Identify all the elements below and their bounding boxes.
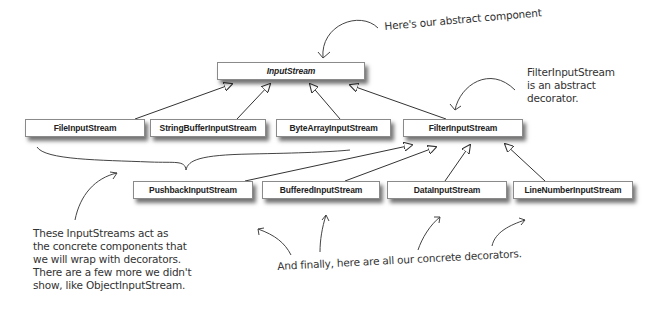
class-datainputstream: DataInputStream	[387, 181, 507, 199]
class-bytearrayinputstream: ByteArrayInputStream	[276, 119, 391, 137]
class-stringbufferinputstream: StringBufferInputStream	[150, 119, 266, 137]
class-inputstream: InputStream	[217, 62, 365, 80]
handdrawn-arrows	[37, 20, 525, 255]
class-fileinputstream: FileInputStream	[25, 119, 145, 137]
class-linenumberinputstream: LineNumberInputStream	[513, 181, 633, 199]
class-pushbackinputstream: PushbackInputStream	[133, 181, 253, 199]
note-concrete-components: These InputStreams act as the concrete c…	[33, 227, 191, 292]
class-diagram: InputStream FileInputStream StringBuffer…	[0, 0, 664, 320]
note-abstract-decorator: FilterInputStream is an abstract decorat…	[527, 66, 615, 105]
class-filterinputstream: FilterInputStream	[403, 119, 523, 137]
class-bufferedinputstream: BufferedInputStream	[262, 181, 380, 199]
